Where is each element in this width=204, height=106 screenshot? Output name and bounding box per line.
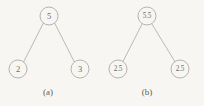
figure-container: 5 2 3 (a) 5.5 2.5 <box>0 0 204 106</box>
node-a-right-label: 3 <box>78 64 82 74</box>
node-a-root: 5 <box>40 7 58 25</box>
node-b-left: 2.5 <box>109 60 127 78</box>
tree-panel-a: 5 2 3 (a) <box>9 7 89 97</box>
tree-panel-b: 5.5 2.5 2.5 (b) <box>109 7 189 97</box>
node-b-root-label: 5.5 <box>143 12 152 20</box>
tree-diagram-svg: 5 2 3 (a) 5.5 2.5 <box>0 0 204 106</box>
edge-a-root-to-right <box>55 23 75 62</box>
node-b-root: 5.5 <box>138 7 156 25</box>
node-a-left-label: 2 <box>16 64 20 74</box>
panel-a-caption: (a) <box>43 87 53 97</box>
node-b-right-label: 2.5 <box>176 65 185 73</box>
edge-a-root-to-left <box>24 23 44 62</box>
node-b-left-label: 2.5 <box>114 65 123 73</box>
edge-b-root-to-left <box>123 24 143 62</box>
edge-b-root-to-right <box>152 24 175 62</box>
node-a-root-label: 5 <box>47 11 51 21</box>
panel-b-caption: (b) <box>142 87 153 97</box>
node-a-right: 3 <box>71 60 89 78</box>
node-b-right: 2.5 <box>171 60 189 78</box>
node-a-left: 2 <box>9 60 27 78</box>
